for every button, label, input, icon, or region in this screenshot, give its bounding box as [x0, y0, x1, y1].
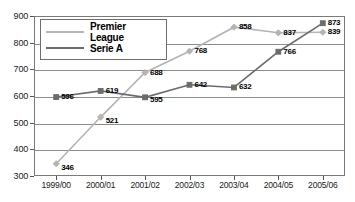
x-tick-mark [323, 176, 324, 180]
x-tick-mark [56, 176, 57, 180]
legend-label-premier-league: Premier League [90, 21, 161, 43]
data-point-label: 837 [283, 28, 295, 37]
y-tick-label: 300 [0, 171, 28, 181]
data-point-label: 839 [328, 27, 340, 36]
data-point-label: 596 [61, 92, 73, 101]
gridline [35, 97, 344, 98]
y-tick-label: 700 [0, 64, 28, 74]
y-tick-mark [30, 96, 34, 97]
data-point-label: 858 [239, 22, 251, 31]
data-point-label: 595 [150, 95, 162, 104]
data-point-label: 346 [61, 163, 73, 172]
legend-label-serie-a: Serie A [90, 43, 123, 54]
x-tick-mark [101, 176, 102, 180]
legend-item-premier-league: Premier League [46, 24, 161, 40]
legend-swatch-serie-a [46, 47, 84, 49]
y-tick-label: 900 [0, 11, 28, 21]
legend-swatch-premier-league [46, 31, 84, 33]
x-tick-label: 1999/00 [42, 180, 71, 190]
data-point-label: 619 [106, 86, 118, 95]
gridline [35, 150, 344, 151]
x-tick-label: 2005/06 [308, 180, 337, 190]
y-tick-mark [30, 69, 34, 70]
x-tick-label: 2001/02 [130, 180, 159, 190]
data-point-label: 642 [195, 80, 207, 89]
data-point-label: 873 [328, 18, 340, 27]
gridline [35, 70, 344, 71]
gridline [35, 124, 344, 125]
y-tick-label: 400 [0, 144, 28, 154]
x-tick-label: 2002/03 [175, 180, 204, 190]
y-tick-mark [30, 176, 34, 177]
y-tick-mark [30, 16, 34, 17]
data-point-label: 521 [106, 116, 118, 125]
y-tick-label: 500 [0, 118, 28, 128]
legend: Premier League Serie A [40, 19, 167, 60]
data-point-label: 632 [239, 82, 251, 91]
line-chart: 300400500600700800900 1999/002000/012001… [0, 0, 355, 202]
x-tick-label: 2000/01 [86, 180, 115, 190]
y-tick-label: 600 [0, 91, 28, 101]
x-tick-mark [234, 176, 235, 180]
data-point-label: 766 [283, 47, 295, 56]
x-tick-mark [145, 176, 146, 180]
x-tick-mark [278, 176, 279, 180]
y-tick-mark [30, 149, 34, 150]
y-tick-label: 800 [0, 38, 28, 48]
x-tick-label: 2004/05 [264, 180, 293, 190]
y-tick-mark [30, 123, 34, 124]
data-point-label: 688 [150, 68, 162, 77]
data-point-label: 768 [195, 46, 207, 55]
x-tick-label: 2003/04 [219, 180, 248, 190]
y-tick-mark [30, 43, 34, 44]
x-tick-mark [190, 176, 191, 180]
